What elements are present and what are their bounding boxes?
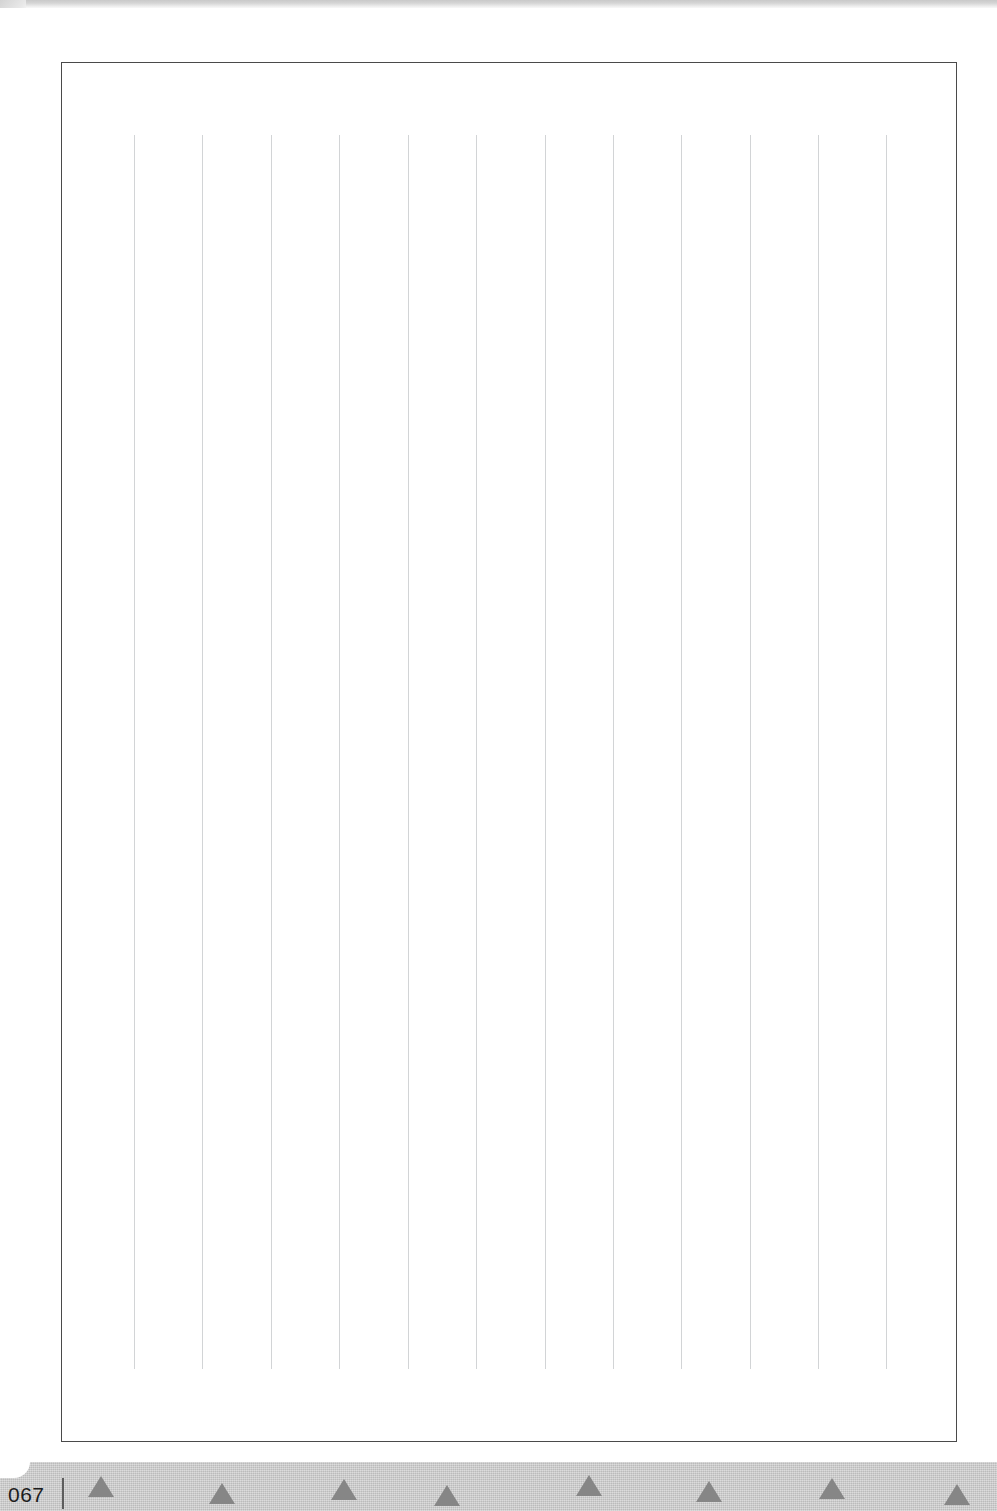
writing-area[interactable] bbox=[62, 63, 956, 1441]
triangle-ornament-icon bbox=[696, 1481, 722, 1502]
triangle-ornament-icon bbox=[434, 1485, 460, 1506]
paper-sheet bbox=[0, 8, 997, 1462]
scanned-page-container: 067 bbox=[0, 0, 997, 1511]
triangle-ornament-icon bbox=[209, 1483, 235, 1504]
footer-corner-notch bbox=[0, 1462, 30, 1478]
page-number-separator bbox=[62, 1478, 64, 1509]
triangle-ornament-icon bbox=[331, 1479, 357, 1500]
page-number: 067 bbox=[8, 1484, 45, 1505]
triangle-ornament-icon bbox=[576, 1475, 602, 1496]
triangle-ornament-icon bbox=[944, 1484, 970, 1505]
triangle-ornament-icon bbox=[88, 1476, 114, 1497]
triangle-ornament-icon bbox=[819, 1478, 845, 1499]
footer-band: 067 bbox=[0, 1462, 997, 1511]
